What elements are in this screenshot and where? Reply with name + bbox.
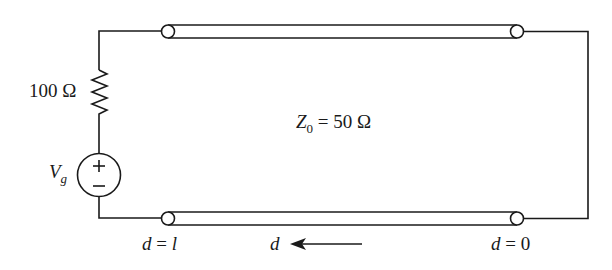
resistor-label: 100 Ω [29,80,76,102]
tline-bottom-left-end-icon [162,212,175,225]
position-right-eq: = [501,233,521,254]
tline-bottom-right-end-icon [511,212,524,225]
position-left-label: d = l [142,233,177,255]
position-right-var: d [491,233,501,254]
position-left-eq: = [152,233,172,254]
wire-top-left [99,31,162,70]
position-left-var: d [142,233,152,254]
source-symbol: V [49,161,61,182]
position-right-val: 0 [521,233,531,254]
source-label: Vg [49,161,67,183]
source-subscript: g [61,171,68,186]
tline-top-left-end-icon [162,25,175,38]
tline-top-right-end-icon [511,25,524,38]
position-left-val: l [172,233,177,254]
position-right-label: d = 0 [491,233,530,255]
resistor-100-ohm [92,70,107,153]
voltage-source-icon [78,154,121,197]
wire-right-load [524,32,589,219]
impedance-symbol: Z [296,111,307,132]
direction-var: d [270,233,280,254]
impedance-subscript: 0 [307,121,314,136]
direction-label: d [270,233,280,255]
circuit-diagram [0,0,612,270]
impedance-value: = 50 Ω [313,111,371,132]
impedance-label: Z0 = 50 Ω [296,111,371,133]
wire-bottom-left [99,197,162,218]
